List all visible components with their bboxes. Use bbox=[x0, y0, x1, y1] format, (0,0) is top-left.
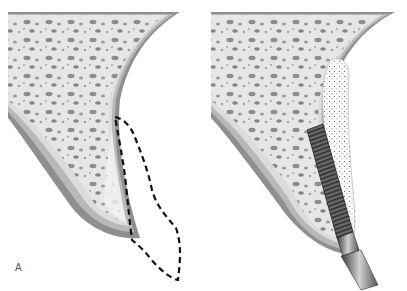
bone-diagram-b bbox=[203, 0, 407, 291]
panel-b-implant-placed: B bbox=[203, 0, 407, 291]
panel-label-a: A bbox=[15, 262, 22, 273]
panel-a-resorbed-ridge: A bbox=[0, 0, 204, 291]
bone-diagram-a bbox=[0, 0, 204, 291]
